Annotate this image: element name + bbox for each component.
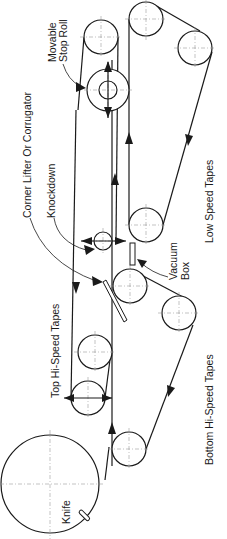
layboy-diagram: Knife Top Hi-Speed Tapes Bottom Hi- xyxy=(0,0,227,539)
arrow-down-icon xyxy=(104,107,112,118)
low-speed-tapes: Low Speed Tapes xyxy=(125,0,216,246)
arrow-up-icon xyxy=(104,61,112,72)
arrow-up-icon xyxy=(125,132,133,144)
knockdown-label: Knockdown xyxy=(45,164,57,218)
arrow-down-icon xyxy=(167,385,175,397)
corner-lifter-leader: Corner Lifter Or Corrugator xyxy=(21,91,103,286)
movable-stop-roll: Movable Stop Roll xyxy=(46,16,132,240)
vacuum-label: Vacuum xyxy=(167,242,179,280)
knife-cylinder: Knife xyxy=(0,430,104,539)
arrow-right-icon xyxy=(102,394,112,402)
low-speed-tapes-label: Low Speed Tapes xyxy=(203,160,215,243)
top-hi-speed-tapes: Top Hi-Speed Tapes xyxy=(49,60,116,466)
arrow-left-icon xyxy=(81,237,92,245)
arrow-up-icon xyxy=(108,422,116,434)
bottom-hi-speed-tapes-label: Bottom Hi-Speed Tapes xyxy=(203,354,215,465)
arrow-left-icon xyxy=(64,394,74,402)
box-label: Box xyxy=(179,261,191,280)
stop-roll-label: Stop Roll xyxy=(57,19,69,62)
arrow-right-icon xyxy=(115,237,126,245)
top-hi-speed-tapes-label: Top Hi-Speed Tapes xyxy=(49,304,61,398)
corner-lifter-label: Corner Lifter Or Corrugator xyxy=(21,91,33,218)
knife-label: Knife xyxy=(60,500,72,524)
